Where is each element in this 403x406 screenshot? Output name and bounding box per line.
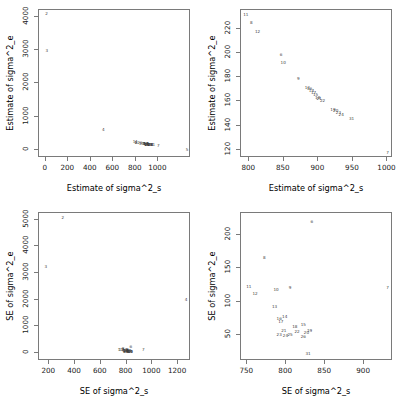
x-tick-label: 1000 (377, 164, 395, 171)
data-point-label: 11 (243, 13, 248, 17)
y-tick-mark (34, 16, 38, 17)
x-tick-mark (100, 360, 101, 364)
data-point-label: 2 (45, 12, 48, 16)
x-tick-mark (112, 157, 113, 161)
y-tick-mark (34, 82, 38, 83)
x-tick-label: 1200 (168, 367, 186, 374)
plot-area: 2345711812610913161417151821221920232431 (38, 9, 190, 157)
y-tick-mark (34, 352, 38, 353)
y-tick-label: 0 (22, 139, 29, 159)
y-tick-mark (34, 149, 38, 150)
x-tick-label: 750 (239, 367, 253, 374)
panel-bottom-right: 6811121097131614171518212219202324252631… (202, 203, 403, 406)
y-tick-mark (34, 299, 38, 300)
data-point-label: 7 (142, 348, 145, 352)
y-tick-mark (236, 28, 240, 29)
data-point-label: 7 (157, 144, 160, 148)
data-point-label: 22 (320, 99, 325, 103)
data-point-label: 22 (295, 330, 300, 334)
y-tick-label: 200 (224, 223, 231, 243)
y-tick-mark (236, 76, 240, 77)
y-tick-label: 150 (224, 257, 231, 277)
data-point-label: 10 (273, 288, 278, 292)
x-tick-label: 850 (317, 367, 331, 374)
y-tick-mark (34, 325, 38, 326)
data-point-label: 8 (263, 256, 266, 260)
y-tick-label: 0 (22, 342, 29, 362)
x-tick-label: 850 (276, 164, 290, 171)
x-tick-mark (352, 157, 353, 161)
x-axis-title: SE of sigma^2_s (80, 387, 149, 395)
y-tick-mark (236, 100, 240, 101)
y-tick-mark (236, 334, 240, 335)
x-tick-mark (283, 157, 284, 161)
x-tick-mark (246, 360, 247, 364)
y-axis-title: SE of sigma^2_e (6, 211, 14, 361)
x-axis-title: Estimate of sigma^2_s (67, 184, 161, 192)
y-tick-label: 4000 (22, 5, 29, 25)
data-point-label: 6 (280, 52, 283, 56)
x-tick-label: 900 (311, 164, 325, 171)
plot-area: 118126109131614171518212219202324317 (240, 9, 392, 157)
panel-top-left: 2345711812610913161417151821221920232431… (0, 0, 201, 203)
data-point-label: 31 (150, 143, 155, 147)
y-tick-mark (236, 301, 240, 302)
y-tick-label: 3000 (22, 262, 29, 282)
data-point-label: 7 (386, 151, 389, 155)
y-axis-title: SE of sigma^2_e (208, 211, 216, 361)
data-point-label: 17 (278, 320, 283, 324)
x-tick-label: 1000 (142, 367, 160, 374)
data-point-label: 5 (186, 148, 189, 152)
data-point-label: 31 (128, 350, 133, 354)
plot-area: 6811121097131614171518212219202324252631 (240, 212, 392, 360)
x-tick-mark (135, 157, 136, 161)
x-tick-mark (90, 157, 91, 161)
data-point-label: 9 (297, 77, 300, 81)
y-tick-label: 120 (224, 138, 231, 158)
data-point-label: 24 (339, 113, 344, 117)
y-tick-label: 200 (224, 42, 231, 62)
y-tick-mark (34, 49, 38, 50)
data-point-label: 3 (44, 265, 47, 269)
y-tick-label: 2000 (22, 72, 29, 92)
x-tick-label: 800 (278, 367, 292, 374)
data-point-label: 13 (272, 304, 277, 308)
x-tick-mark (317, 157, 318, 161)
x-tick-mark (157, 157, 158, 161)
panel-top-right: 1181261091316141715182122192023243178008… (202, 0, 403, 203)
y-tick-label: 100 (224, 290, 231, 310)
x-tick-mark (363, 360, 364, 364)
data-point-label: 8 (250, 21, 253, 25)
x-tick-mark (324, 360, 325, 364)
data-point-label: 12 (252, 292, 257, 296)
x-tick-label: 800 (128, 164, 142, 171)
x-tick-label: 950 (345, 164, 359, 171)
x-axis-title: SE of sigma^2_s (282, 387, 351, 395)
x-tick-mark (48, 360, 49, 364)
x-tick-label: 400 (83, 164, 97, 171)
data-point-label: 9 (289, 286, 292, 290)
y-axis-title: Estimate of sigma^2_e (208, 8, 216, 158)
data-point-label: 26 (301, 335, 306, 339)
y-tick-label: 160 (224, 90, 231, 110)
x-tick-mark (386, 157, 387, 161)
y-tick-mark (236, 149, 240, 150)
y-tick-label: 220 (224, 18, 231, 38)
x-tick-mark (151, 360, 152, 364)
data-point-label: 11 (246, 285, 251, 289)
y-tick-mark (236, 125, 240, 126)
y-tick-mark (34, 219, 38, 220)
x-tick-label: 600 (93, 367, 107, 374)
y-axis-title: Estimate of sigma^2_e (6, 8, 14, 158)
data-point-label: 10 (281, 61, 286, 65)
data-point-label: 15 (301, 323, 306, 327)
y-tick-label: 5000 (22, 208, 29, 228)
y-tick-label: 180 (224, 66, 231, 86)
data-point-label: 6 (311, 220, 314, 224)
x-tick-mark (67, 157, 68, 161)
data-point-label: 31 (305, 352, 310, 356)
x-tick-mark (177, 360, 178, 364)
y-tick-label: 140 (224, 114, 231, 134)
x-tick-label: 400 (67, 367, 81, 374)
data-point-label: 31 (349, 117, 354, 121)
